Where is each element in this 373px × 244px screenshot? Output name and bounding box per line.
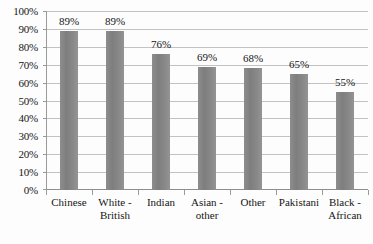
- x-axis-tick-mark: [322, 190, 323, 195]
- x-axis-tick-mark: [230, 190, 231, 195]
- y-axis-tick-label: 50%: [18, 95, 38, 106]
- x-axis-category-label: Pakistani: [276, 196, 322, 240]
- bars-layer: 89%89%76%69%68%65%55%: [46, 11, 368, 190]
- bar-slot: 55%: [322, 11, 368, 190]
- y-axis-tick-label: 100%: [13, 6, 38, 17]
- category-label-line: Chinese: [46, 196, 92, 209]
- category-label-line: Asian -: [184, 196, 230, 209]
- x-axis-tick-mark: [368, 190, 369, 195]
- bar-chart-figure: 0%10%20%30%40%50%60%70%80%90%100% 89%89%…: [0, 0, 373, 244]
- y-axis-tick-label: 0%: [24, 185, 38, 196]
- y-axis-tick-label: 80%: [18, 41, 38, 52]
- y-axis-tick-label: 20%: [18, 149, 38, 160]
- y-axis-tick-label: 10%: [18, 167, 38, 178]
- bar: [60, 31, 78, 190]
- bar-slot: 69%: [184, 11, 230, 190]
- x-axis-category-label: Chinese: [46, 196, 92, 240]
- x-axis-tick-marks: [46, 190, 368, 195]
- y-axis-tick-label: 60%: [18, 77, 38, 88]
- bar-slot: 65%: [276, 11, 322, 190]
- category-label-line: Indian: [138, 196, 184, 209]
- category-label-line: White -: [92, 196, 138, 209]
- bar: [106, 31, 124, 190]
- x-axis-category-label: White -British: [92, 196, 138, 240]
- category-label-line: Other: [230, 196, 276, 209]
- category-label-line: Pakistani: [276, 196, 322, 209]
- category-label-line: Black -: [322, 196, 368, 209]
- bar: [198, 67, 216, 191]
- y-axis-tick-label: 40%: [18, 113, 38, 124]
- bar-value-label: 89%: [105, 16, 125, 27]
- x-axis-tick-mark: [184, 190, 185, 195]
- x-axis-category-label: Black -African: [322, 196, 368, 240]
- bar: [290, 74, 308, 190]
- x-axis-category-label: Other: [230, 196, 276, 240]
- bar-slot: 76%: [138, 11, 184, 190]
- y-axis-tick-labels: 0%10%20%30%40%50%60%70%80%90%100%: [0, 11, 42, 190]
- bar-slot: 89%: [92, 11, 138, 190]
- bar-value-label: 55%: [335, 77, 355, 88]
- bar-slot: 89%: [46, 11, 92, 190]
- category-label-line: other: [184, 209, 230, 222]
- category-label-line: African: [322, 209, 368, 222]
- x-axis-tick-mark: [92, 190, 93, 195]
- bar: [336, 92, 354, 190]
- category-label-line: British: [92, 209, 138, 222]
- bar-value-label: 65%: [289, 59, 309, 70]
- y-axis-tick-label: 30%: [18, 131, 38, 142]
- x-axis-category-label: Indian: [138, 196, 184, 240]
- bar: [244, 68, 262, 190]
- y-axis-tick-label: 70%: [18, 59, 38, 70]
- bar-slot: 68%: [230, 11, 276, 190]
- x-axis-category-labels: ChineseWhite -BritishIndianAsian -otherO…: [46, 196, 368, 240]
- bar-value-label: 76%: [151, 39, 171, 50]
- bar: [152, 54, 170, 190]
- x-axis-tick-mark: [276, 190, 277, 195]
- bar-value-label: 68%: [243, 53, 263, 64]
- x-axis-tick-mark: [46, 190, 47, 195]
- y-axis-tick-label: 90%: [18, 23, 38, 34]
- x-axis-tick-mark: [138, 190, 139, 195]
- x-axis-category-label: Asian -other: [184, 196, 230, 240]
- bar-value-label: 69%: [197, 52, 217, 63]
- bar-value-label: 89%: [59, 16, 79, 27]
